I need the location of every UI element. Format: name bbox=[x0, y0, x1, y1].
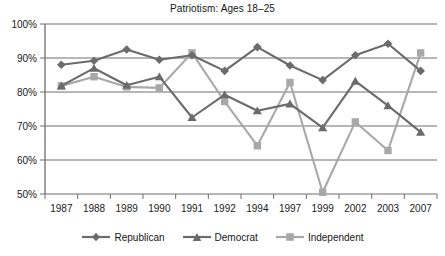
x-tick-label: 2003 bbox=[377, 203, 400, 214]
legend-swatch-independent bbox=[275, 231, 305, 243]
x-tick-label: 2002 bbox=[344, 203, 367, 214]
chart-container: Patriotism: Ages 18–25 100%90%80%70%60%5… bbox=[0, 0, 445, 256]
data-point-marker bbox=[221, 98, 228, 105]
x-tick-label: 1999 bbox=[312, 203, 335, 214]
y-tick-label: 80% bbox=[17, 87, 37, 98]
x-tick-label: 1992 bbox=[214, 203, 237, 214]
chart-legend: Republican Democrat Independent bbox=[0, 231, 445, 243]
y-tick-label: 90% bbox=[17, 53, 37, 64]
data-point-marker bbox=[254, 142, 261, 149]
data-point-marker bbox=[155, 72, 164, 80]
series-independent bbox=[58, 49, 425, 196]
x-tick-label: 1988 bbox=[83, 203, 106, 214]
x-tick-label: 1987 bbox=[50, 203, 73, 214]
data-point-marker bbox=[155, 55, 164, 64]
data-point-marker bbox=[319, 189, 326, 196]
legend-swatch-republican bbox=[81, 231, 111, 243]
data-point-marker bbox=[122, 45, 131, 54]
x-tick-label: 2007 bbox=[410, 203, 433, 214]
data-point-marker bbox=[90, 73, 97, 80]
y-tick-label: 60% bbox=[17, 155, 37, 166]
data-point-marker bbox=[352, 118, 359, 125]
x-tick-label: 1991 bbox=[181, 203, 204, 214]
y-tick-label: 50% bbox=[17, 189, 37, 200]
y-tick-label: 70% bbox=[17, 121, 37, 132]
data-point-marker bbox=[89, 64, 98, 72]
data-point-marker bbox=[286, 61, 295, 70]
x-tick-label: 1994 bbox=[246, 203, 269, 214]
data-point-marker bbox=[351, 77, 360, 85]
series-line bbox=[61, 44, 420, 80]
data-point-marker bbox=[384, 147, 391, 154]
data-point-marker bbox=[57, 61, 66, 70]
legend-item-independent[interactable]: Independent bbox=[275, 231, 364, 243]
y-tick-label: 100% bbox=[11, 19, 37, 30]
series-line bbox=[61, 53, 420, 192]
legend-item-democrat[interactable]: Democrat bbox=[182, 231, 258, 243]
data-point-marker bbox=[286, 79, 293, 86]
data-point-marker bbox=[156, 84, 163, 91]
x-tick-label: 1997 bbox=[279, 203, 302, 214]
legend-label-independent: Independent bbox=[308, 232, 364, 243]
legend-swatch-democrat bbox=[182, 231, 212, 243]
data-point-marker bbox=[417, 49, 424, 56]
legend-label-democrat: Democrat bbox=[215, 232, 258, 243]
x-tick-label: 1990 bbox=[148, 203, 171, 214]
legend-item-republican[interactable]: Republican bbox=[81, 231, 164, 243]
legend-label-republican: Republican bbox=[114, 232, 164, 243]
plot-area: 100%90%80%70%60%50%198719881989199019911… bbox=[0, 0, 445, 256]
x-tick-label: 1989 bbox=[116, 203, 139, 214]
